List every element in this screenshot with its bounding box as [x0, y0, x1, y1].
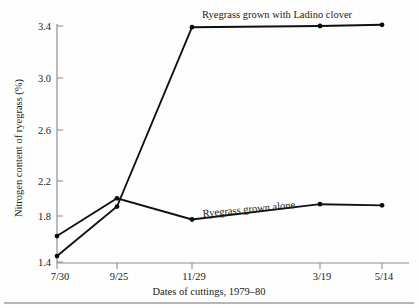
data-point: [380, 22, 385, 27]
data-point: [115, 204, 120, 209]
series-annotation-alone: Ryegrass grown alone: [202, 199, 296, 219]
y-tick-label: 1.4: [38, 257, 52, 268]
x-tick-label: 11/29: [182, 271, 206, 282]
x-axis-tick-labels: 7/30 9/25 11/29 3/19 5/14: [51, 271, 394, 282]
x-axis-title: Dates of cuttings, 1979–80: [152, 286, 265, 297]
data-point: [115, 196, 120, 201]
data-point: [55, 254, 60, 259]
x-tick-label: 9/25: [110, 271, 129, 282]
y-tick-label: 2.2: [38, 176, 51, 187]
y-tick-label: 2.6: [38, 125, 51, 136]
series-annotation-ladino-clover: Ryegrass grown with Ladino clover: [202, 9, 353, 20]
data-point: [380, 203, 385, 208]
data-point: [318, 24, 323, 29]
series-line-ladino-clover: [57, 25, 382, 256]
y-axis-tick-labels: 3.4 3.0 2.6 2.2 1.8 1.4: [38, 21, 52, 268]
data-point: [190, 217, 195, 222]
y-tick-label: 1.8: [38, 211, 51, 222]
chart-figure: 3.4 3.0 2.6 2.2 1.8 1.4 7/30 9/25 11/29 …: [0, 0, 418, 308]
y-tick-label: 3.4: [38, 21, 52, 32]
y-axis-title: Nitrogen content of ryegrass (%): [13, 78, 25, 217]
data-point: [318, 202, 323, 207]
series-points-ladino-clover: [55, 22, 385, 258]
line-chart: 3.4 3.0 2.6 2.2 1.8 1.4 7/30 9/25 11/29 …: [0, 0, 418, 308]
x-tick-label: 7/30: [51, 271, 70, 282]
data-point: [55, 234, 60, 239]
x-tick-label: 5/14: [375, 271, 394, 282]
y-tick-label: 3.0: [38, 73, 51, 84]
y-axis-ticks: [57, 26, 63, 262]
data-point: [190, 25, 195, 30]
x-axis-ticks: [57, 263, 382, 269]
x-tick-label: 3/19: [313, 271, 332, 282]
